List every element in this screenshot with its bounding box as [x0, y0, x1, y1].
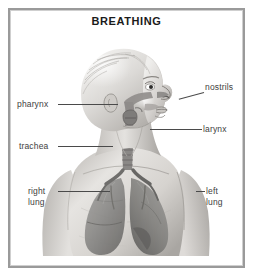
label-right-lung: right lung: [28, 186, 45, 208]
leader-line-pharynx: [58, 104, 118, 105]
leader-line-left-lung: [196, 191, 205, 192]
leader-line-larynx: [150, 129, 202, 130]
label-nostrils: nostrils: [205, 82, 233, 93]
label-pharynx: pharynx: [17, 99, 48, 110]
leader-line-right-lung: [58, 191, 110, 192]
leader-line-trachea: [58, 146, 113, 147]
label-larynx: larynx: [203, 124, 227, 135]
label-left-lung: left lung: [206, 186, 223, 208]
label-trachea: trachea: [19, 141, 48, 152]
figure-title: BREATHING: [12, 15, 241, 27]
